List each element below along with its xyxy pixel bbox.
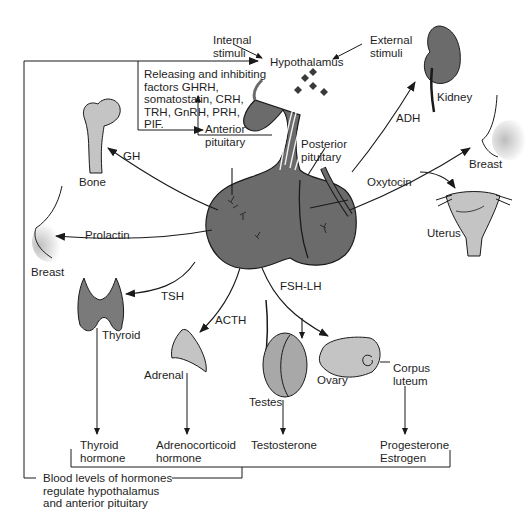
- internal-stimuli-label: Internal stimuli: [213, 34, 251, 59]
- adrenal-illustration: [171, 329, 206, 372]
- adh-label: ADH: [396, 112, 420, 125]
- breast-right-illustration: [482, 95, 528, 160]
- breast-left-illustration: [32, 186, 68, 262]
- gh-label: GH: [123, 150, 140, 163]
- progesterone-estrogen-label: Progesterone Estrogen: [380, 439, 449, 464]
- feedback-label: Blood levels of hormones regulate hypoth…: [43, 472, 172, 510]
- breast-left-label: Breast: [31, 266, 64, 279]
- anterior-pituitary-label: Anterior pituitary: [205, 123, 245, 148]
- adrenal-label: Adrenal: [144, 369, 184, 382]
- external-stimuli-label: External stimuli: [370, 34, 412, 59]
- corpus-luteum-label: Corpus luteum: [393, 362, 430, 387]
- thyroid-illustration: [78, 278, 124, 331]
- ovary-label: Ovary: [317, 374, 348, 387]
- testosterone-label: Testosterone: [251, 439, 317, 452]
- thyroid-hormone-label: Thyroid hormone: [80, 439, 125, 464]
- uterus-label: Uterus: [427, 227, 461, 240]
- testes-illustration: [263, 300, 307, 397]
- tsh-label: TSH: [161, 290, 184, 303]
- hypothalamus-label: Hypothalamus: [270, 56, 344, 69]
- adrenocorticoid-hormone-label: Adrenocorticoid hormone: [156, 439, 236, 464]
- acth-label: ACTH: [215, 314, 246, 327]
- fsh-lh-label: FSH-LH: [280, 280, 322, 293]
- posterior-pituitary-label: Posterior pituitary: [301, 138, 347, 163]
- uterus-illustration: [436, 192, 512, 257]
- testes-label: Testes: [249, 396, 282, 409]
- kidney-label: Kidney: [437, 91, 472, 104]
- ovary-illustration: [319, 337, 390, 377]
- releasing-factors-label: Releasing and inhibiting factors GHRH, s…: [144, 68, 266, 131]
- bone-label: Bone: [79, 176, 106, 189]
- thyroid-label: Thyroid: [102, 329, 140, 342]
- bone-illustration: [83, 99, 120, 173]
- breast-right-label: Breast: [469, 158, 502, 171]
- prolactin-label: Prolactin: [85, 229, 130, 242]
- oxytocin-label: Oxytocin: [367, 176, 412, 189]
